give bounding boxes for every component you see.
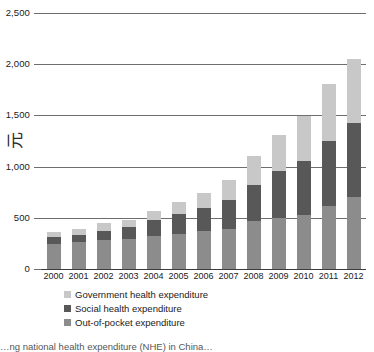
bar-segment	[322, 84, 336, 141]
y-tick-label: 1,000	[0, 162, 30, 172]
legend-swatch-icon	[64, 291, 71, 298]
x-tick-label-2003: 2003	[116, 271, 141, 282]
bar-group	[122, 220, 136, 269]
x-tick-label-2006: 2006	[191, 271, 216, 282]
bar-segment	[97, 240, 111, 269]
bar-segment	[97, 231, 111, 240]
bar-group	[347, 59, 361, 269]
bar-segment	[347, 59, 361, 122]
legend-item[interactable]: Out-of-pocket expenditure	[64, 316, 364, 329]
x-tick-label-2002: 2002	[91, 271, 116, 282]
bar-segment	[222, 180, 236, 199]
y-axis-unit-label: 元	[3, 128, 27, 152]
bar-segment	[47, 244, 61, 269]
bar-segment	[247, 156, 261, 185]
y-tick-mark	[34, 167, 41, 168]
bar-segment	[97, 223, 111, 231]
x-tick-label-2004: 2004	[141, 271, 166, 282]
bar-segment	[222, 200, 236, 229]
bar-segment	[347, 123, 361, 198]
bar-segment	[122, 227, 136, 239]
bar-segment	[122, 220, 136, 227]
bar-segment	[322, 206, 336, 269]
y-tick-mark	[34, 64, 41, 65]
legend-item[interactable]: Government health expenditure	[64, 288, 364, 301]
bar-segment	[222, 229, 236, 269]
bar-segment	[172, 214, 186, 233]
legend-label: Government health expenditure	[75, 289, 208, 300]
x-tick-label-2009: 2009	[266, 271, 291, 282]
chart-legend: Government health expenditureSocial heal…	[64, 288, 364, 330]
bar-group	[97, 223, 111, 269]
bar-segment	[297, 116, 311, 161]
bar-group	[147, 211, 161, 269]
x-tick-label-2012: 2012	[341, 271, 366, 282]
bar-segment	[297, 161, 311, 215]
bar-segment	[172, 234, 186, 269]
y-tick-mark	[34, 218, 41, 219]
legend-swatch-icon	[64, 305, 71, 312]
bar-group	[322, 84, 336, 269]
bar-group	[197, 193, 211, 269]
bar-segment	[72, 242, 86, 269]
bar-segment	[47, 237, 61, 244]
bar-group	[172, 202, 186, 269]
x-tick-label-2005: 2005	[166, 271, 191, 282]
bar-group	[297, 116, 311, 269]
bar-segment	[147, 220, 161, 236]
bar-group	[222, 180, 236, 269]
bar-series-container	[41, 13, 366, 269]
y-tick-mark	[34, 13, 41, 14]
bar-segment	[147, 236, 161, 269]
bar-segment	[272, 135, 286, 171]
bar-segment	[322, 141, 336, 207]
x-axis-tick-labels: 2000200120022003200420052006200720082009…	[41, 271, 366, 285]
x-tick-label-2000: 2000	[41, 271, 66, 282]
bar-segment	[347, 197, 361, 269]
bar-segment	[247, 185, 261, 221]
bar-group	[272, 135, 286, 269]
y-tick-label: 500	[0, 213, 30, 223]
plot-area: 05001,0001,5002,0002,500	[41, 13, 366, 269]
bar-group	[72, 229, 86, 269]
y-tick-mark	[34, 269, 41, 270]
y-tick-mark	[34, 115, 41, 116]
legend-item[interactable]: Social health expenditure	[64, 302, 364, 315]
x-tick-label-2007: 2007	[216, 271, 241, 282]
x-tick-label-2010: 2010	[291, 271, 316, 282]
y-tick-label: 1,500	[0, 110, 30, 120]
bar-group	[47, 232, 61, 269]
bar-segment	[197, 193, 211, 207]
bar-segment	[172, 202, 186, 214]
bar-segment	[247, 221, 261, 269]
bar-segment	[272, 171, 286, 218]
bar-segment	[147, 211, 161, 220]
legend-swatch-icon	[64, 319, 71, 326]
bar-segment	[197, 231, 211, 269]
x-tick-label-2008: 2008	[241, 271, 266, 282]
x-tick-label-2001: 2001	[66, 271, 91, 282]
bar-segment	[72, 235, 86, 243]
figure-caption: …ng national health expenditure (NHE) in…	[0, 341, 374, 352]
x-tick-label-2011: 2011	[316, 271, 341, 282]
y-tick-label: 2,000	[0, 59, 30, 69]
legend-label: Out-of-pocket expenditure	[75, 317, 185, 328]
bar-segment	[122, 239, 136, 269]
bar-group	[247, 156, 261, 269]
y-tick-label: 2,500	[0, 8, 30, 18]
legend-label: Social health expenditure	[75, 303, 182, 314]
y-tick-label: 0	[0, 264, 30, 274]
bar-segment	[197, 208, 211, 232]
bar-segment	[297, 215, 311, 269]
gridline-0	[41, 269, 366, 270]
bar-segment	[272, 218, 286, 269]
